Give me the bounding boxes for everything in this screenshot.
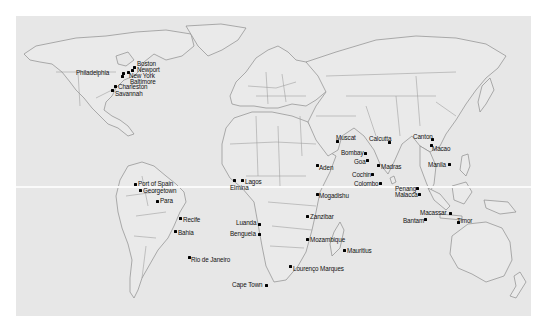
city-marker-bombay[interactable] bbox=[364, 152, 367, 155]
city-marker-macassar[interactable] bbox=[449, 212, 452, 215]
city-label-cape-town: Cape Town bbox=[232, 281, 263, 288]
equator-line bbox=[16, 186, 531, 188]
australia bbox=[450, 222, 512, 282]
city-label-georgetown: Georgetown bbox=[143, 187, 176, 194]
city-label-macao: Macao bbox=[432, 145, 450, 152]
city-marker-lourenco-marques[interactable] bbox=[289, 265, 292, 268]
city-marker-mauritius[interactable] bbox=[343, 249, 346, 252]
city-marker-bantam[interactable] bbox=[424, 218, 427, 221]
city-marker-cape-town[interactable] bbox=[265, 284, 268, 287]
city-label-rio-de-janeiro: Rio de Janeiro bbox=[191, 256, 230, 263]
city-label-timor: Timor bbox=[457, 217, 472, 224]
city-label-lourenco-marques: Lourenço Marques bbox=[293, 265, 344, 272]
city-label-manila: Manila bbox=[428, 161, 446, 168]
city-label-port-of-spain: Port of Spain bbox=[138, 180, 173, 187]
city-marker-manila[interactable] bbox=[448, 163, 451, 166]
city-label-benguela: Benguela bbox=[230, 230, 256, 237]
city-marker-charleston[interactable] bbox=[114, 85, 117, 88]
city-label-muscat: Muscat bbox=[336, 134, 356, 141]
city-label-zanzibar: Zanzibar bbox=[310, 213, 334, 220]
city-marker-bahia[interactable] bbox=[174, 230, 177, 233]
city-label-mogadishu: Mogadishu bbox=[319, 192, 349, 199]
city-marker-luanda[interactable] bbox=[258, 223, 261, 226]
world-map-landmasses bbox=[16, 16, 531, 316]
city-label-aden: Aden bbox=[319, 164, 333, 171]
city-label-mauritius: Mauritius bbox=[347, 247, 372, 254]
city-marker-elmina[interactable] bbox=[233, 179, 236, 182]
city-label-philadelphia: Philadelphia bbox=[76, 69, 109, 76]
sri-lanka bbox=[390, 176, 396, 184]
city-label-para: Para bbox=[160, 197, 173, 204]
sumatra bbox=[428, 188, 450, 210]
city-marker-goa[interactable] bbox=[366, 159, 369, 162]
city-marker-para[interactable] bbox=[156, 200, 159, 203]
city-marker-savannah[interactable] bbox=[111, 89, 114, 92]
city-label-savannah: Savannah bbox=[115, 90, 143, 97]
city-label-goa: Goa bbox=[354, 158, 366, 165]
city-marker-zanzibar[interactable] bbox=[306, 215, 309, 218]
city-marker-cochin[interactable] bbox=[371, 173, 374, 176]
city-marker-georgetown[interactable] bbox=[139, 189, 142, 192]
city-marker-lagos[interactable] bbox=[241, 179, 244, 182]
city-label-malacca: Malacca bbox=[395, 191, 418, 198]
greenland bbox=[186, 24, 246, 56]
city-label-canton: Canton bbox=[413, 133, 433, 140]
city-marker-madras[interactable] bbox=[377, 164, 380, 167]
city-marker-port-of-spain[interactable] bbox=[134, 183, 137, 186]
city-marker-recife[interactable] bbox=[179, 217, 182, 220]
city-label-calcutta: Calcutta bbox=[369, 135, 391, 142]
city-marker-malacca[interactable] bbox=[418, 193, 421, 196]
city-label-elmina: Elmina bbox=[230, 184, 249, 191]
city-marker-penang[interactable] bbox=[416, 187, 419, 190]
city-label-bantam: Bantam bbox=[403, 217, 424, 224]
world-map: Boston Newport Philadelphia New York Bal… bbox=[16, 16, 531, 316]
europe bbox=[230, 46, 328, 108]
city-label-mozambique: Mozambique bbox=[310, 236, 345, 243]
new-guinea bbox=[484, 200, 516, 214]
city-marker-benguela[interactable] bbox=[258, 233, 261, 236]
north-america bbox=[24, 30, 194, 136]
city-label-bombay: Bombay bbox=[341, 149, 364, 156]
city-label-recife: Recife bbox=[183, 216, 200, 223]
city-label-colombo: Colombo bbox=[354, 180, 379, 187]
philippines bbox=[460, 154, 470, 176]
city-label-luanda: Luanda bbox=[236, 219, 256, 226]
city-label-macassar: Macassar bbox=[420, 209, 447, 216]
city-label-bahia: Bahia bbox=[178, 229, 194, 236]
asia bbox=[306, 36, 506, 174]
city-label-charleston: Charleston bbox=[118, 83, 147, 90]
city-marker-colombo[interactable] bbox=[379, 182, 382, 185]
city-marker-mozambique[interactable] bbox=[306, 238, 309, 241]
city-label-cochin: Cochin bbox=[352, 171, 371, 178]
new-zealand bbox=[510, 272, 526, 298]
city-label-madras: Madras bbox=[381, 163, 401, 170]
city-marker-baltimore[interactable] bbox=[121, 75, 124, 78]
